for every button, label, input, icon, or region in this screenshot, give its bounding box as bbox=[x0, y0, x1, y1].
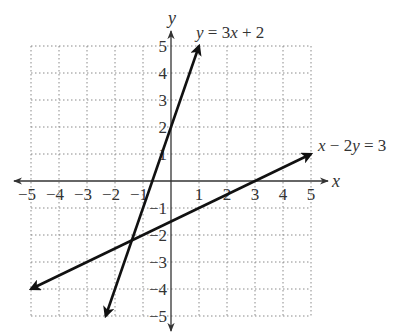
y-tick-label: −5 bbox=[149, 307, 167, 326]
x-tick-label: 3 bbox=[251, 185, 260, 204]
equation-label-line1: y = 3x + 2 bbox=[194, 23, 264, 42]
y-tick-label: 4 bbox=[159, 64, 168, 83]
x-tick-label: −3 bbox=[74, 185, 92, 204]
y-axis-label: y bbox=[166, 8, 176, 28]
y-tick-label: 2 bbox=[159, 118, 168, 137]
axes bbox=[14, 31, 328, 331]
y-tick-label: −3 bbox=[149, 253, 167, 272]
coordinate-plane: −5−4−3−2−112345−5−4−3−2−112345 y x y = 3… bbox=[0, 0, 412, 336]
x-tick-label: 4 bbox=[279, 185, 288, 204]
y-tick-label: 3 bbox=[159, 91, 168, 110]
eq2-part: = 3 bbox=[360, 136, 387, 155]
equation-label-line2: x − 2y = 3 bbox=[317, 136, 386, 155]
x-tick-label: 1 bbox=[195, 185, 204, 204]
x-tick-label: −5 bbox=[18, 185, 36, 204]
eq1-part: y bbox=[194, 23, 204, 42]
eq2-part: y bbox=[350, 136, 360, 155]
eq1-part: = 3 bbox=[204, 23, 231, 42]
eq2-part: − 2 bbox=[326, 136, 353, 155]
x-tick-label: 5 bbox=[307, 185, 316, 204]
x-tick-label: −2 bbox=[102, 185, 120, 204]
y-tick-label: −4 bbox=[149, 280, 168, 299]
x-tick-label: −4 bbox=[46, 185, 65, 204]
eq1-part: + 2 bbox=[238, 23, 265, 42]
x-axis-label: x bbox=[331, 171, 340, 191]
y-tick-label: −1 bbox=[149, 199, 167, 218]
y-tick-label: 5 bbox=[159, 37, 168, 56]
